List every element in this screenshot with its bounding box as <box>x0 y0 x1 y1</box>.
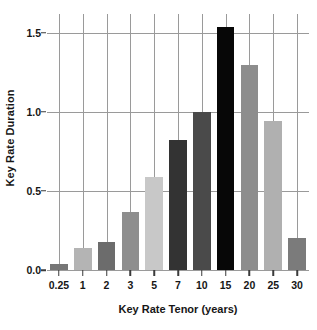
y-axis-title: Key Rate Duration <box>0 0 20 275</box>
y-tick-label: 1.5 <box>26 27 41 39</box>
x-tick-label: 10 <box>196 279 208 291</box>
bar <box>74 248 92 270</box>
y-tick-mark <box>41 269 46 271</box>
y-axis-tick-labels: 0.00.51.01.5 <box>18 0 46 290</box>
bar <box>98 242 116 270</box>
bar <box>288 238 306 270</box>
x-tick-label: 2 <box>104 279 110 291</box>
bar <box>145 177 163 270</box>
x-tick-mark <box>153 270 155 276</box>
bar <box>169 140 187 270</box>
x-tick-label: 25 <box>267 279 279 291</box>
x-tick-mark <box>58 270 60 276</box>
bar <box>122 212 140 270</box>
x-tick-label: 30 <box>291 279 303 291</box>
y-tick-mark <box>41 190 46 192</box>
x-tick-mark <box>225 270 227 276</box>
x-tick-mark <box>201 270 203 276</box>
bar <box>241 65 259 270</box>
bars-layer <box>47 14 309 270</box>
y-tick-label: 0.0 <box>26 264 41 276</box>
y-tick-label: 1.0 <box>26 106 41 118</box>
x-tick-mark <box>273 270 275 276</box>
x-tick-label: 0.25 <box>49 279 69 291</box>
x-tick-label: 7 <box>175 279 181 291</box>
x-axis-title: Key Rate Tenor (years) <box>47 303 309 315</box>
bar-chart: Key Rate Duration 0.00.51.01.5 0.2512357… <box>0 0 317 330</box>
y-tick-label: 0.5 <box>26 185 41 197</box>
x-tick-mark <box>177 270 179 276</box>
x-tick-label: 1 <box>80 279 86 291</box>
x-tick-label: 3 <box>127 279 133 291</box>
x-axis: 0.25123571015202530 <box>47 270 309 302</box>
y-axis-title-text: Key Rate Duration <box>4 89 16 186</box>
x-tick-label: 20 <box>244 279 256 291</box>
y-tick-mark <box>41 111 46 113</box>
x-tick-mark <box>296 270 298 276</box>
x-tick-mark <box>130 270 132 276</box>
x-tick-mark <box>82 270 84 276</box>
x-tick-label: 15 <box>220 279 232 291</box>
bar <box>217 27 235 270</box>
x-tick-label: 5 <box>151 279 157 291</box>
x-tick-mark <box>249 270 251 276</box>
y-tick-mark <box>41 32 46 34</box>
bar <box>193 112 211 270</box>
x-tick-mark <box>106 270 108 276</box>
bar <box>264 121 282 270</box>
plot-area <box>47 14 309 270</box>
